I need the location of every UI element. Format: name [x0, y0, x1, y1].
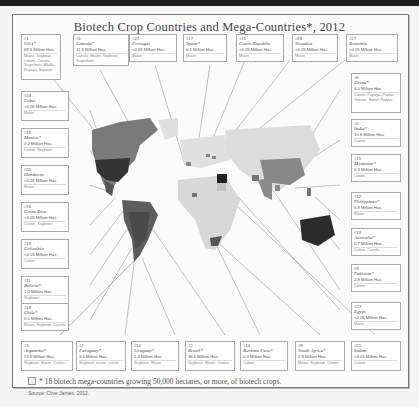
legend-swatch — [28, 377, 36, 385]
country-box-czech-republic: #25 Czech Republic <0.05 Million Has. Ma… — [236, 34, 284, 62]
country-box-india: #5 India* 10.8 Million Has. Cotton — [351, 119, 401, 147]
country-box-bolivia: #11 Bolivia* 1.0 Million Has. Soybean — [21, 276, 69, 306]
country-box-spain: #17 Spain* 0.1 Million Has. Maize — [183, 34, 227, 62]
land-masses — [92, 118, 335, 262]
country-box-romania: #27 Romania <0.05 Million Has. Maize — [346, 34, 398, 62]
country-box-south-africa: #8 South Africa* 2.9 Million Has. Maize,… — [295, 341, 345, 371]
country-box-brazil: #2 Brazil* 36.6 Million Has. Soybean, Ma… — [185, 341, 235, 371]
country-box-china: #6 China* 4.0 Million Has. Cotton, Papay… — [351, 73, 401, 113]
country-box-burkina-faso: #14 Burkina Faso* 0.3 Million Has. Cotto… — [240, 341, 288, 371]
country-box-mexico: #16 Mexico* 0.2 Million Has. Cotton, Soy… — [21, 128, 69, 158]
country-box-paraguay: #7 Paraguay* 3.4 Million Has. Soybean, m… — [76, 341, 126, 371]
country-box-cuba: #24 Cuba <0.05 Million Has. Maize — [21, 91, 69, 121]
country-box-argentina: #3 Argentina* 23.9 Million Has. Soybean,… — [21, 341, 73, 371]
country-box-portugal: #22 Portugal <0.05 Million Has. Maize — [129, 34, 177, 62]
country-box-costa-rica: #26 Costa Rica <0.05 Million Has. Cotton… — [21, 202, 69, 232]
country-box-egypt: #23 Egypt <0.05 Million Has. Maize — [351, 302, 401, 330]
country-box-colombia: #19 Colombia <0.05 Million Has. Cotton — [21, 239, 69, 269]
country-box-usa: #1 USA* 69.5 Million Has. Maize, Soybean… — [21, 34, 61, 80]
country-box-chile: #18 Chile* 0.1 Million Has. Maize, Soybe… — [21, 303, 69, 331]
country-box-sudan: #21 Sudan <0.05 Million Has. Cotton — [351, 341, 401, 371]
source-credit: Source: Clive James, 2012. — [28, 390, 89, 396]
country-box-myanmar: #15 Myanmar* 0.3 Million Has. Cotton — [351, 154, 401, 182]
country-box-honduras: #20 Honduras <0.05 Million Has. Maize — [21, 165, 69, 195]
country-box-slovakia: #28 Slovakia <0.05 Million Has. Maize — [292, 34, 338, 62]
country-box-canada: #4 Canada* 11.6 Million Has. Canola, Mai… — [73, 34, 129, 66]
footnote: * 18 biotech mega-countries growing 50,0… — [28, 377, 281, 386]
country-box-pakistan: #9 Pakistan* 2.8 Million Has. Cotton — [351, 264, 401, 292]
country-box-philippines: #12 Philippines* 0.8 Million Has. Maize — [351, 192, 401, 220]
country-box-uruguay: #10 Uruguay* 1.4 Million Has. Soybean, M… — [131, 341, 179, 371]
country-box-australia: #13 Australia* 0.7 Million Has. Cotton, … — [351, 228, 401, 256]
